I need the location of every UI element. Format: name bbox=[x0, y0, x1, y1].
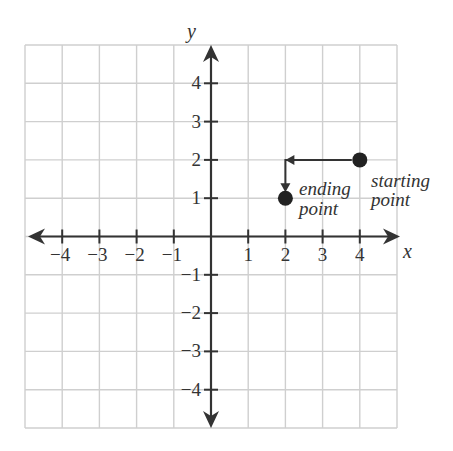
x-tick-label: 4 bbox=[355, 244, 365, 265]
svg-text:point: point bbox=[369, 189, 411, 210]
starting-point-dot bbox=[352, 152, 367, 167]
x-tick-label: 3 bbox=[318, 244, 328, 265]
x-tick-label: 2 bbox=[281, 244, 291, 265]
ending-point-label: ending point bbox=[297, 178, 351, 219]
y-tick-label: 4 bbox=[192, 72, 202, 93]
svg-text:starting: starting bbox=[371, 170, 430, 191]
x-tick-label: −1 bbox=[162, 244, 182, 265]
starting-point-label: starting point bbox=[369, 170, 430, 210]
svg-text:ending: ending bbox=[299, 178, 351, 199]
y-tick-label: −2 bbox=[181, 302, 201, 323]
axes bbox=[28, 45, 400, 428]
svg-text:point: point bbox=[297, 198, 339, 219]
x-axis-label: x bbox=[402, 240, 412, 262]
y-tick-label: −3 bbox=[181, 340, 201, 361]
ending-point-dot bbox=[278, 191, 293, 206]
x-tick-label: −3 bbox=[87, 244, 107, 265]
y-tick-label: −4 bbox=[181, 379, 202, 400]
path-arrow-left-icon bbox=[285, 155, 294, 165]
y-tick-label: 2 bbox=[192, 149, 202, 170]
y-axis-label: y bbox=[185, 20, 196, 43]
y-tick-label: 1 bbox=[192, 187, 202, 208]
x-tick-label: −4 bbox=[50, 244, 71, 265]
coordinate-plane: −4−3−2−112344321−1−2−3−4 x y starting po… bbox=[0, 0, 453, 451]
y-tick-label: −1 bbox=[181, 264, 201, 285]
x-tick-label: −2 bbox=[124, 244, 144, 265]
y-tick-label: 3 bbox=[192, 111, 202, 132]
x-tick-label: 1 bbox=[243, 244, 253, 265]
